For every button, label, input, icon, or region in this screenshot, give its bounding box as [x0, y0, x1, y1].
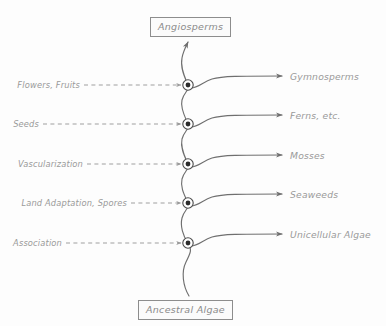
node-markers [183, 80, 193, 248]
apex-node-angiosperms[interactable]: Angiosperms [150, 17, 231, 37]
node-marker-4[interactable] [183, 198, 193, 208]
lineage-label-mosses[interactable]: Mosses [290, 150, 325, 161]
root-node-ancestral-algae[interactable]: Ancestral Algae [138, 300, 233, 320]
trait-label-land-adaptation-spores: Land Adaptation, Spores [21, 198, 127, 208]
trait-label-vascularization: Vascularization [18, 159, 83, 169]
lineage-label-gymnosperms[interactable]: Gymnosperms [290, 71, 359, 82]
trait-label-flowers-fruits: Flowers, Fruits [17, 80, 80, 90]
branch-seaweeds [191, 194, 282, 206]
branch-path-1 [191, 76, 282, 88]
trait-label-seeds: Seeds [13, 119, 39, 129]
lineage-label-unicellular-algae[interactable]: Unicellular Algae [290, 229, 371, 240]
branch-mosses [191, 155, 282, 167]
node-marker-2[interactable] [183, 119, 193, 129]
branch-ferns [191, 115, 282, 127]
branch-path-5 [191, 234, 282, 246]
lineage-label-ferns[interactable]: Ferns, etc. [290, 110, 341, 121]
diagram-canvas: Angiosperms Ancestral Algae Flowers, Fru… [0, 0, 386, 326]
node-marker-3[interactable] [183, 159, 193, 169]
lineage-label-seaweeds[interactable]: Seaweeds [290, 189, 338, 200]
node-marker-1[interactable] [183, 80, 193, 90]
trait-label-association: Association [13, 238, 62, 248]
node-marker-5[interactable] [183, 238, 193, 248]
branch-path-3 [191, 155, 282, 167]
branch-gymnosperms [191, 76, 282, 88]
branch-path-2 [191, 115, 282, 127]
branch-unicellular-algae [191, 234, 282, 246]
branch-path-4 [191, 194, 282, 206]
